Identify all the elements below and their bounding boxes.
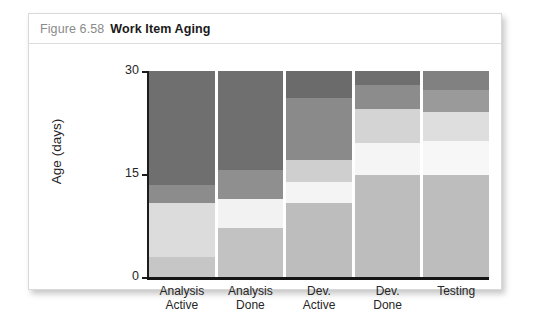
y-axis-title: Age (days) (49, 82, 64, 222)
x-tick-label: Dev.Done (355, 284, 421, 312)
bar-segment[interactable] (286, 182, 352, 203)
bar-segment[interactable] (355, 109, 421, 143)
bar-column[interactable] (218, 71, 284, 277)
bar-segment[interactable] (355, 85, 421, 109)
bar-segment[interactable] (355, 175, 421, 277)
bar-segment[interactable] (423, 71, 489, 90)
x-tick-label: Testing (423, 284, 489, 298)
x-tick-label-line: Active (286, 298, 352, 312)
bar-segment[interactable] (218, 199, 284, 228)
figure-card: Figure 6.58 Work Item Aging Age (days) 0… (28, 13, 502, 290)
bar-segment[interactable] (355, 143, 421, 175)
bar-segment[interactable] (149, 203, 215, 257)
bar-segment[interactable] (423, 141, 489, 175)
bar-segment[interactable] (286, 203, 352, 277)
bar-segment[interactable] (149, 71, 215, 185)
bar-segment[interactable] (423, 90, 489, 112)
y-tick-label: 30 (113, 63, 139, 77)
bar-segment[interactable] (286, 160, 352, 182)
figure-number: Figure 6.58 (40, 22, 104, 36)
bar-segment[interactable] (423, 112, 489, 141)
y-tick-label: 0 (113, 269, 139, 283)
bar-segment[interactable] (149, 257, 215, 277)
x-tick-label-line: Dev. (355, 284, 421, 298)
x-tick-label: AnalysisDone (218, 284, 284, 312)
bar-segment[interactable] (423, 175, 489, 277)
bar-segment[interactable] (286, 98, 352, 160)
figure-title: Work Item Aging (110, 22, 210, 36)
x-tick-label-line: Done (218, 298, 284, 312)
y-tick-mark (142, 71, 147, 73)
bar-segment[interactable] (218, 71, 284, 170)
y-tick-label: 15 (113, 166, 139, 180)
chart-plot-area: Age (days) 01530 AnalysisActiveAnalysisD… (29, 44, 501, 290)
x-axis-line (147, 277, 489, 280)
bar-segment[interactable] (149, 185, 215, 203)
x-tick-label-line: Analysis (149, 284, 215, 298)
x-tick-label-line: Analysis (218, 284, 284, 298)
x-tick-label-line: Testing (423, 284, 489, 298)
bar-column[interactable] (149, 71, 215, 277)
x-tick-label: AnalysisActive (149, 284, 215, 312)
bar-column[interactable] (355, 71, 421, 277)
bar-segment[interactable] (218, 170, 284, 200)
x-tick-label-line: Dev. (286, 284, 352, 298)
bar-columns-group (149, 71, 489, 277)
y-tick-mark (142, 174, 147, 176)
figure-header: Figure 6.58 Work Item Aging (29, 14, 501, 44)
y-tick-mark (142, 277, 147, 279)
bar-column[interactable] (423, 71, 489, 277)
x-tick-label-line: Done (355, 298, 421, 312)
x-tick-label-line: Active (149, 298, 215, 312)
bar-segment[interactable] (218, 228, 284, 277)
x-tick-label: Dev.Active (286, 284, 352, 312)
bar-segment[interactable] (286, 71, 352, 98)
bar-column[interactable] (286, 71, 352, 277)
bar-segment[interactable] (355, 71, 421, 85)
